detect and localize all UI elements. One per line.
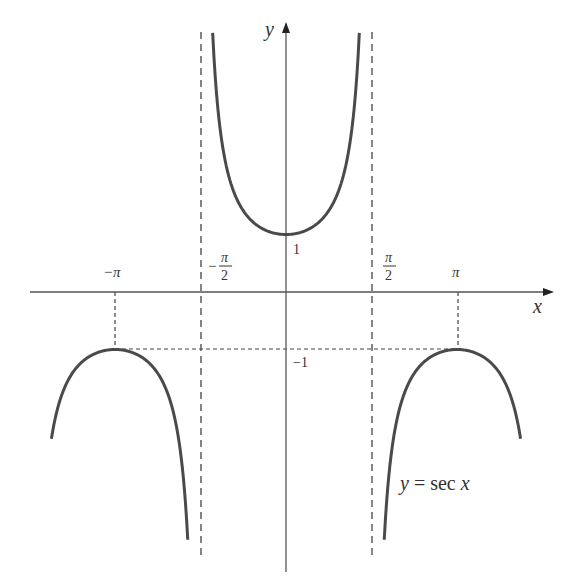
svg-text:2: 2	[385, 268, 392, 283]
secant-graph: y x −π π − π 2 π 2 1 −1 y = sec x	[0, 0, 578, 578]
tick-label-one: 1	[293, 242, 300, 257]
sec-curve-left-branch	[51, 350, 187, 540]
sec-curve-right-branch	[384, 350, 520, 540]
tick-label-neg-pi: −π	[103, 264, 121, 280]
tick-label-neg-half-pi: − π 2	[208, 250, 232, 283]
x-axis-label: x	[532, 295, 542, 317]
y-axis-arrow-icon	[282, 22, 290, 33]
tick-label-neg-one: −1	[293, 355, 308, 370]
function-label: y = sec x	[398, 472, 470, 495]
svg-text:2: 2	[221, 268, 228, 283]
x-axis-arrow-icon	[543, 288, 554, 296]
svg-text:π: π	[385, 250, 393, 265]
tick-label-pi: π	[452, 264, 460, 280]
svg-text:π: π	[221, 250, 229, 265]
y-axis-label: y	[263, 18, 274, 41]
tick-label-half-pi: π 2	[383, 250, 396, 283]
svg-text:−: −	[208, 258, 216, 274]
